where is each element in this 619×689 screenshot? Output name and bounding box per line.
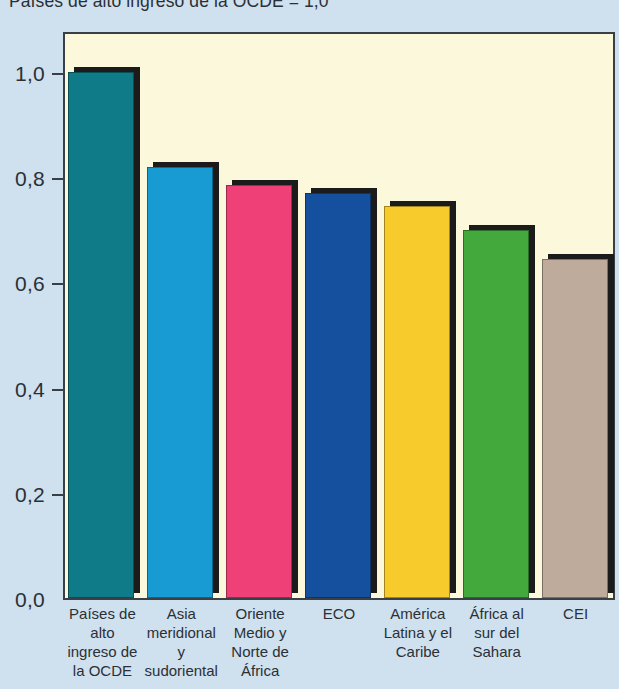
bar-chart-figure: Países de alto ingreso de la OCDE = 1,0 … <box>0 0 619 689</box>
y-tick-label: 1,0 <box>15 62 45 86</box>
bars-container <box>65 34 613 598</box>
y-tick-label: 0,2 <box>15 483 45 507</box>
bar-group <box>226 179 298 598</box>
plot-area <box>63 32 615 600</box>
y-tick-mark <box>52 73 63 75</box>
x-axis: Países de alto ingreso de la OCDEAsia me… <box>63 604 615 689</box>
y-tick-label: 0,6 <box>15 272 45 296</box>
bar-group <box>463 224 535 598</box>
bar-group <box>305 187 377 598</box>
x-tick-label: Asia meridional y sudoriental <box>144 604 219 680</box>
y-tick-mark <box>52 389 63 391</box>
bar-group <box>68 66 140 598</box>
bar[interactable] <box>68 72 134 598</box>
y-tick-label: 0,4 <box>15 378 45 402</box>
x-tick-label: África al sur del Sahara <box>459 604 534 661</box>
y-tick-mark <box>52 178 63 180</box>
bar[interactable] <box>384 206 450 598</box>
bar[interactable] <box>226 185 292 598</box>
x-tick-label: CEI <box>538 604 613 623</box>
x-tick-label: Países de alto ingreso de la OCDE <box>65 604 140 680</box>
y-tick-label: 0,0 <box>15 588 45 612</box>
y-tick-label: 0,8 <box>15 167 45 191</box>
x-tick-label: América Latina y el Caribe <box>380 604 455 661</box>
y-tick-mark <box>52 283 63 285</box>
bar[interactable] <box>542 259 608 598</box>
y-tick-mark <box>52 494 63 496</box>
bar-group <box>147 161 219 598</box>
x-tick-label: ECO <box>302 604 377 623</box>
bar[interactable] <box>305 193 371 598</box>
bar[interactable] <box>463 230 529 598</box>
bar-group <box>542 253 614 598</box>
bar-group <box>384 200 456 598</box>
x-tick-label: Oriente Medio y Norte de África <box>223 604 298 680</box>
y-axis: 1,00,80,60,40,20,0 <box>0 0 63 689</box>
bar[interactable] <box>147 167 213 598</box>
